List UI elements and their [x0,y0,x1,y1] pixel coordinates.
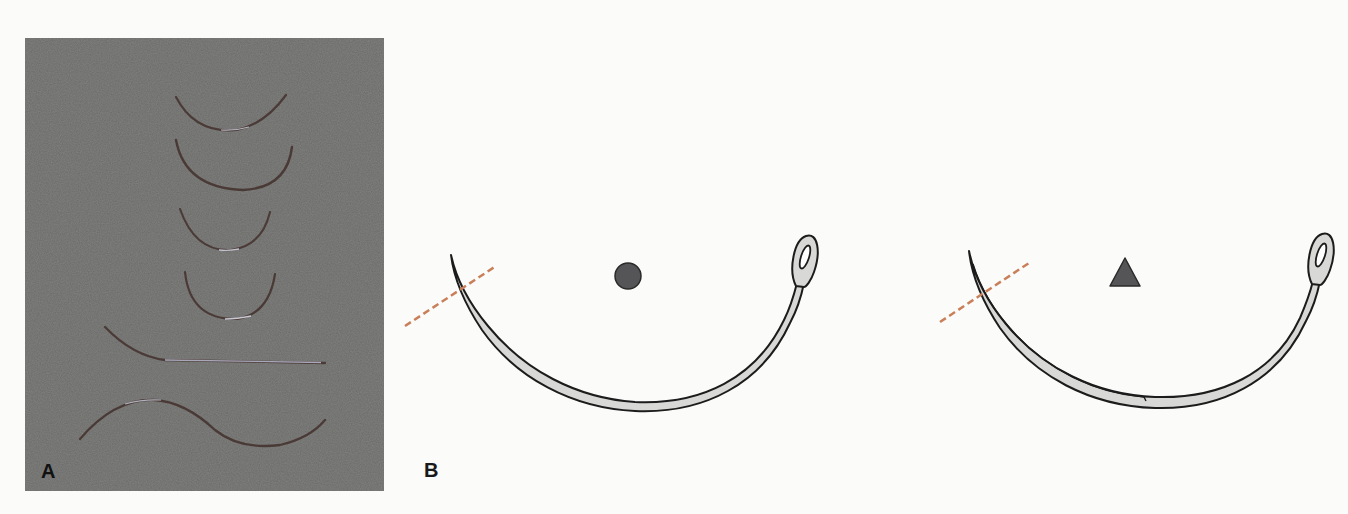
panel-b-label: B [424,460,438,480]
panel-a-photograph: A [25,38,384,491]
needle-diagrams [384,0,1348,514]
triangle-cross-section-icon [1110,258,1140,286]
figure-page: A [0,0,1348,514]
panel-a-label: A [41,461,55,481]
circle-cross-section-icon [615,263,641,289]
panel-b-illustration: B [384,0,1348,514]
cutting-needle-diagram [940,233,1334,408]
round-needle-diagram [405,235,818,411]
needles-photo [25,38,384,491]
round-needle-section-line [405,266,496,326]
cutting-needle-body [969,251,1320,408]
